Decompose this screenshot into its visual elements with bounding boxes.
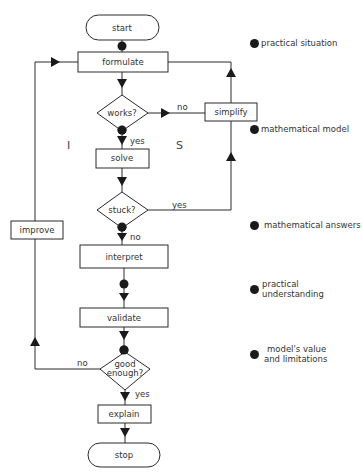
simplify-label: simplify <box>214 108 247 117</box>
bullet-dot-icon <box>250 39 259 48</box>
arrow-down-icon <box>119 293 129 301</box>
solve-label: solve <box>111 154 133 163</box>
bullet-dot-icon <box>250 350 259 359</box>
arrow-down-icon <box>117 177 127 186</box>
edge-improve-formulate <box>35 62 78 221</box>
arrow-up-icon <box>30 337 40 346</box>
bullet-dot-icon <box>250 221 259 230</box>
legend-item-practical-understanding: practical understanding <box>250 280 363 300</box>
improve-label: improve <box>20 226 55 235</box>
legend-item-models-value: model's value and limitations <box>250 345 327 365</box>
stuck-label: stuck? <box>108 206 135 215</box>
arrow-right-icon <box>161 108 170 118</box>
explain-label: explain <box>109 410 140 419</box>
formulate-label: formulate <box>102 58 143 67</box>
arrow-down-icon <box>117 136 127 145</box>
start-label: start <box>112 24 132 33</box>
junction-dot <box>118 42 127 51</box>
arrow-down-icon <box>117 79 127 88</box>
edge-simplify-formulate <box>168 62 231 103</box>
validate-label: validate <box>107 314 141 323</box>
bullet-dot-icon <box>250 285 259 294</box>
stop-label: stop <box>115 451 133 460</box>
edge-label-stuck-no: no <box>130 233 141 242</box>
arrow-up-icon <box>226 152 236 161</box>
legend-item-practical-situation: practical situation <box>250 39 337 49</box>
edge-label-good-yes: yes <box>135 390 150 399</box>
junction-dot <box>120 280 129 289</box>
arrow-down-icon <box>120 428 130 437</box>
edge-stuck-simplify <box>148 121 231 210</box>
edge-label-works-yes: yes <box>130 137 145 146</box>
works-label: works? <box>107 109 137 118</box>
arrow-down-icon <box>119 331 129 340</box>
region-label-left: I <box>67 140 70 151</box>
interpret-label: interpret <box>105 253 142 262</box>
flowchart-canvas <box>0 0 363 476</box>
legend-item-mathematical-answers: mathematical answers <box>250 221 361 231</box>
arrow-down-icon <box>117 233 127 241</box>
legend-item-mathematical-model: mathematical model <box>250 125 349 135</box>
arrow-down-icon <box>120 392 130 401</box>
edge-label-works-no: no <box>177 103 188 112</box>
arrow-right-icon <box>51 57 60 67</box>
arrow-up-icon <box>226 68 236 77</box>
good-enough-label-line2: enough? <box>107 369 144 378</box>
edge-label-stuck-yes: yes <box>172 201 187 210</box>
region-label-right: S <box>176 140 183 151</box>
bullet-dot-icon <box>250 125 259 134</box>
edge-label-good-no: no <box>77 359 88 368</box>
